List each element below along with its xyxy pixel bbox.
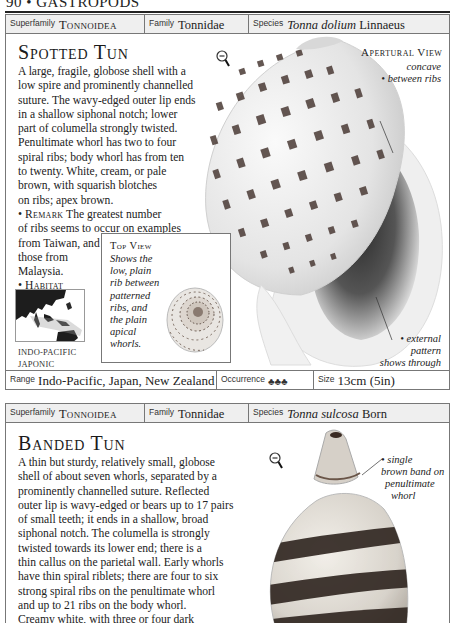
description-line: A thin but sturdy, relatively small, glo… (18, 456, 263, 470)
remark-line: The greatest number (66, 208, 161, 221)
occurrence-label: Occurrence (221, 374, 265, 384)
species-author: Linnaeus (359, 18, 405, 32)
occurrence-shell-icons: ♣♣♣ (268, 376, 288, 387)
top-view-caption: Shows the low, plain rib between pattern… (110, 253, 165, 351)
entry-title: Banded Tun (18, 432, 125, 455)
remark: • Remark The greatest number (18, 208, 213, 222)
shell-top-view-image (164, 284, 226, 356)
species-cell: SpeciesTonna dolium Linnaeus (249, 15, 449, 33)
description-line: shell of about seven whorls, separated b… (18, 470, 263, 484)
annotation-text: single (387, 454, 412, 465)
superfamily-cell: SuperfamilyTonnoidea (6, 404, 145, 422)
description-line: part of columella strongly twisted. (18, 122, 213, 136)
description-line: in a shallow siphonal notch; lower (18, 108, 213, 122)
description-line: outer lip is wavy-edged or bears up to 1… (18, 499, 263, 513)
map-label-region: JAPONIC (18, 359, 54, 369)
caption-line: ribs, and (110, 302, 165, 314)
family-cell: FamilyTonnidae (145, 15, 249, 33)
annotation-line: • external (361, 333, 441, 345)
caption-line: apical (110, 326, 165, 338)
range-cell: RangeIndo-Pacific, Japan, New Zealand (6, 371, 217, 389)
data-footer: RangeIndo-Pacific, Japan, New Zealand Oc… (6, 370, 449, 389)
species-cell: SpeciesTonna sulcosa Born (249, 404, 449, 422)
taxonomy-bar: SuperfamilyTonnoidea FamilyTonnidae Spec… (6, 15, 449, 34)
description-line: strong spiral ribs on the penultimate wh… (18, 585, 263, 599)
description-line: to twenty. White, cream, or pale (18, 165, 213, 179)
description-line: thin callus on the parietal wall. Early … (18, 556, 263, 570)
running-head: 90 • GASTROPODS (6, 0, 140, 11)
annotation-external-pattern: • external pattern shows through (361, 333, 441, 369)
map-label-region: INDO-PACIFIC (18, 347, 76, 357)
description-line: and up to 21 ribs on the body whorl. (18, 599, 263, 613)
species-name: Tonna sulcosa (287, 407, 358, 421)
annotation-line: pattern (361, 345, 441, 357)
superfamily-value: Tonnoidea (59, 18, 117, 32)
range-label: Range (10, 374, 35, 384)
distribution-map (15, 289, 85, 342)
annotation-line: • single (381, 454, 450, 466)
annotation-concave: concave • between ribs (366, 61, 441, 85)
description-line: Creamy white, with three or four dark (18, 613, 263, 623)
range-value: Indo-Pacific, Japan, New Zealand (38, 373, 215, 388)
taxonomy-bar: SuperfamilyTonnoidea FamilyTonnidae Spec… (6, 404, 449, 423)
description-line: suture. The wavy-edged outer lip ends (18, 94, 213, 108)
annotation-single-band: • single brown band on penultimate whorl (381, 454, 450, 502)
family-label: Family (149, 407, 174, 417)
occurrence-cell: Occurrence♣♣♣ (217, 371, 314, 389)
annotation-line: whorl (381, 490, 450, 502)
annotation-line: brown band on (381, 466, 450, 478)
description-line: brown, with squarish blotches (18, 179, 213, 193)
family-label: Family (149, 18, 174, 28)
description-line: of small teeth; it ends in a shallow, br… (18, 513, 263, 527)
description-line: prominently channelled suture. Reflected (18, 485, 263, 499)
family-value: Tonnidae (178, 18, 224, 32)
annotation-text: external (407, 333, 441, 344)
superfamily-cell: SuperfamilyTonnoidea (6, 15, 145, 33)
description: A thin but sturdy, relatively small, glo… (18, 456, 263, 623)
superfamily-value: Tonnoidea (59, 407, 117, 421)
header-rule (5, 11, 450, 13)
description-line: have thin spiral riblets; there are four… (18, 570, 263, 584)
species-name: Tonna dolium (287, 18, 356, 32)
description-line: low spire and prominently channelled (18, 79, 213, 93)
entry-title: Spotted Tun (18, 41, 129, 64)
caption-line: the plain (110, 314, 165, 326)
entry-banded-tun: SuperfamilyTonnoidea FamilyTonnidae Spec… (5, 403, 450, 623)
view-label: Apertural View (361, 46, 442, 58)
superfamily-label: Superfamily (10, 407, 55, 417)
top-view-title: Top View (110, 240, 152, 251)
species-label: Species (253, 407, 283, 417)
size-cell: Size13cm (5in) (314, 371, 449, 389)
size-value: 13cm (5in) (338, 373, 395, 388)
annotation-line: shows through (361, 357, 441, 369)
shell-apertural-image (201, 35, 450, 370)
description-line: spiral ribs; body whorl has from ten (18, 151, 213, 165)
description-line: siphonal notch. The columella is strongl… (18, 527, 263, 541)
entry-spotted-tun: SuperfamilyTonnoidea FamilyTonnidae Spec… (5, 14, 450, 390)
size-label: Size (318, 374, 335, 384)
annotation-line: • between ribs (366, 73, 441, 85)
annotation-line: concave (366, 61, 441, 73)
description-line: twisted towards its lower end; there is … (18, 542, 263, 556)
remark-label: Remark (25, 208, 63, 221)
caption-line: low, plain (110, 265, 165, 277)
top-view-inset: Top View Shows the low, plain rib betwee… (101, 233, 231, 363)
family-cell: FamilyTonnidae (145, 404, 249, 422)
superfamily-label: Superfamily (10, 18, 55, 28)
species-author: Born (362, 407, 387, 421)
annotation-text: between ribs (388, 73, 441, 84)
annotation-line: penultimate (381, 478, 450, 490)
caption-line: patterned (110, 290, 165, 302)
family-value: Tonnidae (178, 407, 224, 421)
caption-line: whorls. (110, 338, 165, 350)
description-line: A large, fragile, globose shell with a (18, 65, 213, 79)
description-line: on ribs; apex brown. (18, 194, 213, 208)
species-label: Species (253, 18, 283, 28)
description-line: Penultimate whorl has two to four (18, 136, 213, 150)
caption-line: rib between (110, 277, 165, 289)
caption-line: Shows the (110, 253, 165, 265)
